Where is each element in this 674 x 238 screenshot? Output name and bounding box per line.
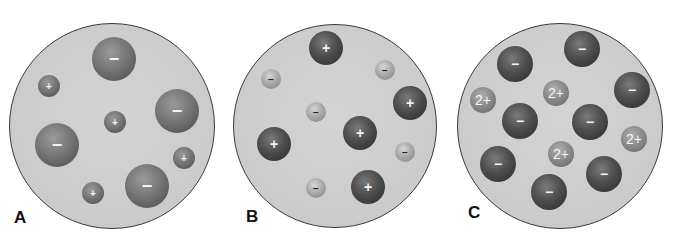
cation-icon: + <box>309 31 343 65</box>
anion-icon: − <box>155 89 199 133</box>
anion-icon: − <box>35 123 79 167</box>
cation-icon: + <box>351 170 385 204</box>
cation-icon: + <box>343 116 377 150</box>
anion-icon: − <box>261 69 281 89</box>
anion-icon: − <box>306 102 326 122</box>
cation-icon: + <box>38 75 60 97</box>
cation-icon: 2+ <box>470 87 496 113</box>
anion-icon: − <box>572 104 608 140</box>
anion-icon: − <box>497 46 533 82</box>
cation-icon: + <box>104 111 126 133</box>
anion-icon: − <box>125 164 169 208</box>
panel-label-c: C <box>468 203 480 223</box>
panel-label-a: A <box>14 208 26 228</box>
anion-icon: − <box>502 103 538 139</box>
anion-icon: − <box>586 156 622 192</box>
cation-icon: + <box>82 182 104 204</box>
anion-icon: − <box>614 72 650 108</box>
cation-icon: 2+ <box>621 126 647 152</box>
cation-icon: 2+ <box>543 80 569 106</box>
cation-icon: + <box>393 86 427 120</box>
cation-icon: 2+ <box>548 141 574 167</box>
anion-icon: − <box>564 31 600 67</box>
anion-icon: − <box>92 37 136 81</box>
anion-icon: − <box>306 178 326 198</box>
panel-label-b: B <box>246 207 258 227</box>
anion-icon: − <box>395 142 415 162</box>
anion-icon: − <box>531 174 567 210</box>
cation-icon: + <box>257 127 291 161</box>
anion-icon: − <box>480 146 516 182</box>
anion-icon: − <box>375 60 395 80</box>
cation-icon: + <box>173 147 195 169</box>
